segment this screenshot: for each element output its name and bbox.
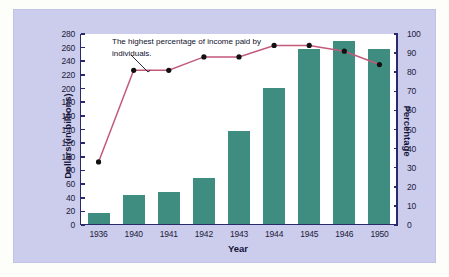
chart-figure: Dollars (in billions) Percentage Year 02…: [14, 10, 435, 262]
annotation-leader-line: [14, 10, 435, 262]
leader-path: [131, 55, 150, 72]
